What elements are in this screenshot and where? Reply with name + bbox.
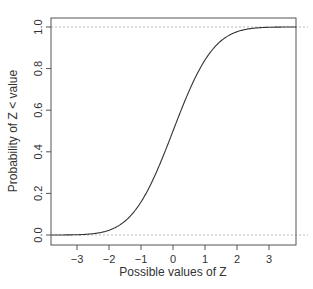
y-tick-label: 0.6 xyxy=(32,103,44,118)
y-tick-label: 1.0 xyxy=(32,19,44,34)
x-tick-label: 3 xyxy=(266,253,272,265)
cdf-curve xyxy=(51,27,296,235)
x-tick-label: −3 xyxy=(71,253,84,265)
cdf-chart: −3−2−101230.00.20.40.60.81.0 Possible va… xyxy=(0,0,313,289)
x-axis-title: Possible values of Z xyxy=(119,265,226,279)
plot-frame xyxy=(51,18,296,245)
plot-area: −3−2−101230.00.20.40.60.81.0 xyxy=(32,18,308,265)
y-tick-label: 0.2 xyxy=(32,186,44,201)
x-tick-label: 2 xyxy=(234,253,240,265)
y-tick-label: 0.0 xyxy=(32,227,44,242)
x-tick-label: −1 xyxy=(135,253,148,265)
y-axis-title: Probability of Z < value xyxy=(6,69,20,192)
y-tick-label: 0.8 xyxy=(32,61,44,76)
x-tick-label: −2 xyxy=(103,253,116,265)
x-tick-label: 0 xyxy=(170,253,176,265)
y-tick-label: 0.4 xyxy=(32,144,44,159)
x-tick-label: 1 xyxy=(202,253,208,265)
